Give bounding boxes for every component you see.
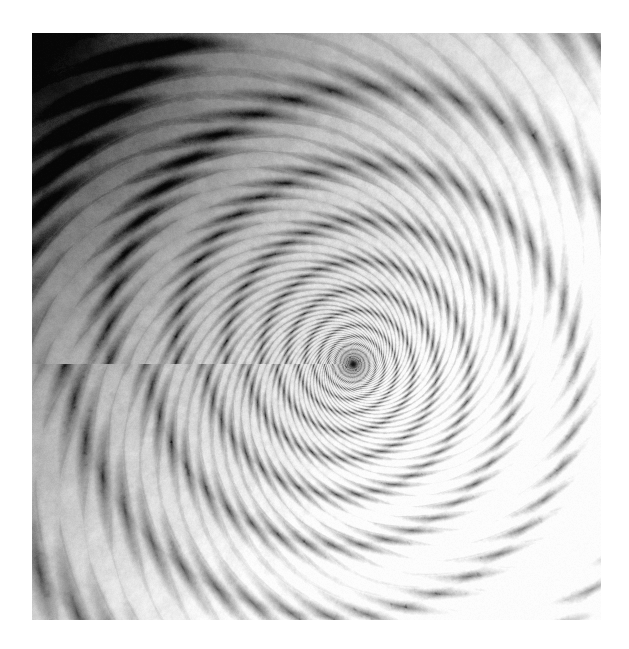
page-root — [0, 0, 629, 649]
margin-left — [0, 0, 32, 649]
margin-right — [601, 0, 629, 649]
mandelbrot-canvas — [32, 33, 601, 620]
margin-bottom — [0, 620, 629, 649]
fractal-image — [32, 33, 601, 620]
margin-top — [0, 0, 629, 33]
